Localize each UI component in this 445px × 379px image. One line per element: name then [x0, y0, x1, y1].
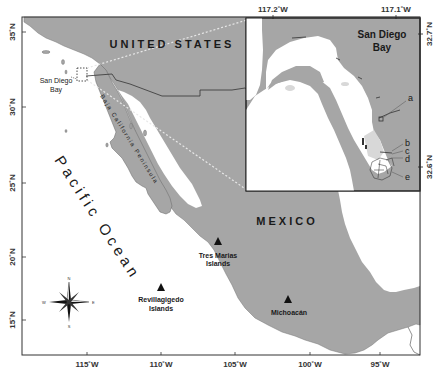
inset-title-line1: San Diego	[358, 29, 407, 40]
label-revillagigedo-line1: Revillagigedo	[138, 296, 184, 304]
inset-x-tick-2: 117.1˚W	[381, 5, 411, 14]
map-figure: a b c d e San Diego Bay 117.2˚W 117.1˚W …	[0, 0, 445, 379]
inset-site-d: d	[405, 154, 410, 164]
inset-x-tick-1: 117.2˚W	[258, 5, 288, 14]
x-tick-110w: 110˚W	[149, 360, 173, 369]
x-tick-95w: 95˚W	[370, 360, 390, 369]
inset-y-tick-1: 32.7˚N	[425, 22, 434, 46]
label-san-diego-bay-line2: Bay	[50, 86, 63, 94]
san-diego-bay-box[interactable]	[77, 68, 87, 81]
inset-site-e: e	[405, 172, 410, 182]
y-tick-25n: 25˚N	[8, 174, 17, 192]
label-united-states: UNITED STATES	[110, 38, 235, 50]
label-mexico: MEXICO	[256, 215, 317, 227]
label-tres-marias-line2: Islands	[206, 260, 230, 267]
triangle-marker-revillagigedo	[157, 283, 165, 291]
x-tick-115w: 115˚W	[75, 360, 99, 369]
compass-rose-icon: N S E W	[42, 276, 95, 329]
inset-map: a b c d e San Diego Bay 117.2˚W 117.1˚W …	[246, 5, 434, 191]
x-tick-100w: 100˚W	[298, 360, 322, 369]
y-tick-20n: 20˚N	[8, 248, 17, 266]
y-tick-30n: 30˚N	[8, 98, 17, 116]
x-tick-105w: 105˚W	[223, 360, 247, 369]
label-michoacan: Michoacán	[271, 309, 307, 316]
inset-title-line2: Bay	[373, 42, 392, 53]
compass-e: E	[92, 300, 95, 305]
label-revillagigedo-line2: Islands	[149, 305, 173, 312]
inset-site-a: a	[408, 93, 413, 103]
compass-n: N	[68, 276, 71, 281]
y-tick-35n: 35˚N	[8, 23, 17, 41]
compass-s: S	[68, 324, 71, 329]
label-san-diego-bay-line1: San Diego	[40, 77, 73, 85]
inset-y-tick-2: 32.6˚N	[425, 155, 434, 179]
label-tres-marias-line1: Tres Marias	[199, 252, 238, 259]
y-tick-15n: 15˚N	[8, 311, 17, 329]
compass-w: W	[42, 300, 46, 305]
